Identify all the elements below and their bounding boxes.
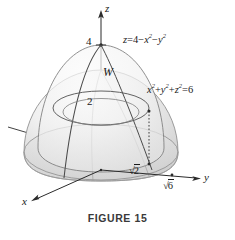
origin-point [100,169,102,171]
region-w-label: W [103,66,113,78]
z-axis-label: z [105,3,109,14]
figure-15: z y x 4 2 W z=4−x2−y2 x2+y2+z2=6 √2 √6 F… [0,0,235,240]
paraboloid-exp-y: 2 [163,32,166,39]
paraboloid-equation: z=4−x2−y2 [123,33,166,45]
sphere-y-intercept-point [171,174,174,177]
sqrt-6-radicand: 6 [168,179,174,191]
sphere-equation: x2+y2+z2=6 [147,83,193,95]
y-axis-label: y [204,172,209,183]
paraboloid-surface [38,45,164,172]
z-value-2-label: 2 [87,96,93,107]
figure-caption: FIGURE 15 [0,212,235,224]
z-value-4-label: 4 [86,36,92,47]
drop-line-foot-point [148,163,151,166]
y-axis-arrowhead [192,176,201,181]
sphere-rhs: 6 [188,84,193,95]
x-axis-label: x [22,196,27,207]
sqrt-6-label: √6 [163,181,174,192]
sqrt-2-label: √2 [129,166,140,177]
three-d-plot [0,0,235,212]
sqrt-2-radicand: 2 [134,164,140,176]
